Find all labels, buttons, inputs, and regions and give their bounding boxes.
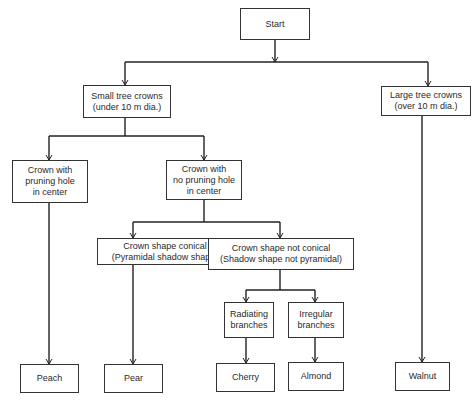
pear-leaf-node: Pear: [104, 364, 163, 393]
walnut-leaf-node: Walnut: [395, 362, 450, 391]
pruning-hole-node: Crown with pruning hole in center: [12, 160, 88, 203]
start-node: Start: [240, 8, 310, 40]
small-tree-crowns-node: Small tree crowns (under 10 m dia.): [83, 85, 171, 118]
irregular-branches-node: Irregular branches: [288, 302, 344, 338]
no-pruning-hole-node: Crown with no pruning hole in center: [166, 160, 242, 200]
not-conical-node: Crown shape not conical (Shadow shape no…: [208, 238, 354, 270]
large-tree-crowns-node: Large tree crowns (over 10 m dia.): [381, 86, 471, 116]
radiating-branches-node: Radiating branches: [224, 302, 274, 338]
peach-leaf-node: Peach: [20, 364, 79, 393]
cherry-leaf-node: Cherry: [216, 363, 275, 392]
almond-leaf-node: Almond: [288, 362, 344, 391]
